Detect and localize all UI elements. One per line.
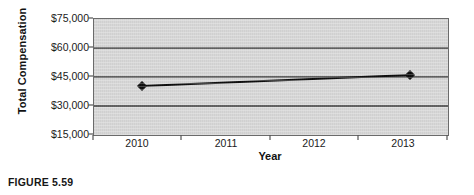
plot-area: [93, 18, 449, 136]
data-point-marker-2013: [406, 71, 415, 80]
y-axis-title: Total Compensation: [16, 1, 28, 121]
figure-5-59: Total Compensation $75,000 $60,000 $45,0…: [0, 0, 474, 195]
gridlines: [94, 48, 448, 106]
line-chart: Total Compensation $75,000 $60,000 $45,0…: [0, 0, 474, 168]
x-tick-label: 2012: [284, 137, 344, 150]
x-tick-label: 2010: [107, 137, 167, 150]
y-tick-label: $60,000: [33, 42, 89, 53]
series-total-compensation: [138, 71, 415, 91]
y-tick-label: $45,000: [33, 71, 89, 82]
x-tick-label: 2011: [196, 137, 256, 150]
x-tick-label: 2013: [373, 137, 433, 150]
figure-caption: FIGURE 5.59: [8, 176, 73, 188]
y-tick-label: $30,000: [33, 100, 89, 111]
y-tick-label: $75,000: [33, 13, 89, 24]
plot-canvas: [94, 19, 448, 135]
y-axis-tick-labels: $75,000 $60,000 $45,000 $30,000 $15,000: [33, 0, 89, 168]
data-point-marker-2010: [138, 82, 147, 91]
x-axis-title: Year: [93, 150, 447, 162]
y-tick-label: $15,000: [33, 129, 89, 140]
